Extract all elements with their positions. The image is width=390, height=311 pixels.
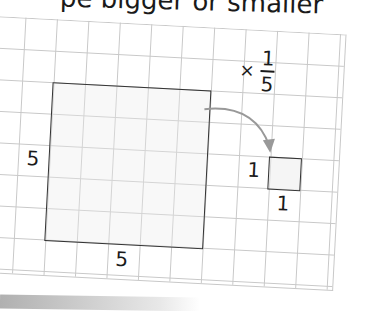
fraction-denominator: 5 xyxy=(260,74,274,95)
small-square-side-label: 1 xyxy=(247,157,261,182)
page-heading: pe bigger or smaller xyxy=(60,0,324,19)
large-square-side-label: 5 xyxy=(26,146,40,171)
fraction: 1 5 xyxy=(259,48,275,94)
page-edge-shadow xyxy=(0,295,200,311)
multiply-sign: × xyxy=(239,59,255,81)
small-square-bottom-label: 1 xyxy=(276,191,290,216)
large-square-bottom-label: 5 xyxy=(115,247,129,272)
small-square xyxy=(267,157,302,192)
fraction-numerator: 1 xyxy=(261,48,275,69)
large-square xyxy=(44,82,211,249)
diagram-scene: 5 5 × 1 5 1 1 xyxy=(0,16,354,304)
scale-factor: × 1 5 xyxy=(238,47,275,94)
